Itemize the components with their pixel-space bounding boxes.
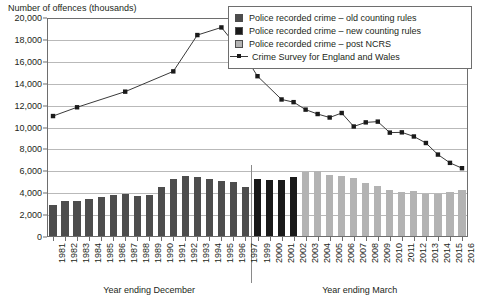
x-axis-tick-label: 1992 xyxy=(189,243,199,263)
x-axis-tick-label: 2001 xyxy=(286,243,296,263)
legend-item-label: Police recorded crime – post NCRS xyxy=(249,39,391,49)
y-axis-tick-label: 12,000 xyxy=(14,101,42,111)
x-axis-tick-label: 1981 xyxy=(57,243,67,263)
legend-swatch-icon xyxy=(235,40,243,48)
x-axis-tick xyxy=(294,237,295,241)
x-axis-tick-label: 1997 xyxy=(249,243,259,263)
x-axis-tick xyxy=(282,237,283,241)
legend-item-label: Crime Survey for England and Wales xyxy=(252,52,400,62)
x-axis-tick xyxy=(101,237,102,241)
y-axis-tick-label: 0 xyxy=(37,232,42,242)
x-axis-tick xyxy=(233,237,234,241)
x-axis-tick xyxy=(270,237,271,241)
x-axis-tick xyxy=(354,237,355,241)
y-axis-tick-label: 16,000 xyxy=(14,57,42,67)
x-axis-tick-label: 2000 xyxy=(274,243,284,263)
x-axis-tick xyxy=(366,237,367,241)
x-axis-tick xyxy=(65,237,66,241)
x-axis-tick-label: 1988 xyxy=(141,243,151,263)
x-axis-tick xyxy=(450,237,451,241)
x-axis-tick-label: 1994 xyxy=(213,243,223,263)
x-axis-tick xyxy=(77,237,78,241)
x-axis-tick-label: 1989 xyxy=(153,243,163,263)
x-axis-tick-label: 2012 xyxy=(418,243,428,263)
legend-item: Police recorded crime – post NCRS xyxy=(235,37,465,50)
x-axis-tick-label: 2009 xyxy=(382,243,392,263)
x-axis-tick xyxy=(89,237,90,241)
x-axis-tick-label: 1995 xyxy=(225,243,235,263)
x-axis-tick xyxy=(426,237,427,241)
crime-statistics-chart: Number of offences (thousands) 02,0004,0… xyxy=(0,0,479,303)
x-axis-tick-label: 2016 xyxy=(466,243,476,263)
x-axis-label-december: Year ending December xyxy=(103,285,195,295)
x-axis-tick-label: 1987 xyxy=(129,243,139,263)
x-axis-tick-label: 2003 xyxy=(310,243,320,263)
counting-rules-divider-upper xyxy=(251,165,252,237)
y-axis-tick-label: 18,000 xyxy=(14,35,42,45)
x-axis-tick-label: 2011 xyxy=(406,243,416,262)
x-axis-tick-label: 1982 xyxy=(69,243,79,263)
x-axis-tick-label: 1985 xyxy=(105,243,115,263)
x-axis-tick-label: 1983 xyxy=(81,243,91,263)
x-axis-tick xyxy=(318,237,319,241)
x-axis-tick xyxy=(185,237,186,241)
x-axis-tick xyxy=(221,237,222,241)
x-axis-tick xyxy=(161,237,162,241)
x-axis-tick-label: 2006 xyxy=(346,243,356,263)
legend-swatch-icon xyxy=(235,27,243,35)
x-axis-tick-label: 2010 xyxy=(394,243,404,263)
x-axis-tick xyxy=(438,237,439,241)
chart-legend: Police recorded crime – old counting rul… xyxy=(228,6,472,69)
x-axis-tick xyxy=(378,237,379,241)
x-axis-tick-label: 1993 xyxy=(201,243,211,263)
x-axis-tick xyxy=(414,237,415,241)
x-axis: 1981198219831984198519861987198819891990… xyxy=(47,237,468,303)
legend-item: Police recorded crime – new counting rul… xyxy=(235,24,465,37)
y-axis-tick-label: 10,000 xyxy=(14,123,42,133)
x-axis-tick-label: 2002 xyxy=(298,243,308,263)
x-axis-tick xyxy=(149,237,150,241)
y-axis-tick-label: 2,000 xyxy=(19,210,42,220)
x-axis-tick-label: 2015 xyxy=(454,243,464,263)
x-axis-tick xyxy=(306,237,307,241)
y-axis-tick-label: 6,000 xyxy=(19,166,42,176)
legend-swatch-icon xyxy=(235,14,243,22)
x-axis-tick-label: 1996 xyxy=(237,243,247,263)
x-axis-tick xyxy=(258,237,259,241)
x-axis-label-march: Year ending March xyxy=(322,285,397,295)
x-axis-tick-label: 2007 xyxy=(358,243,368,263)
x-axis-tick xyxy=(462,237,463,241)
y-axis-tick-label: 4,000 xyxy=(19,188,42,198)
x-axis-tick-label: 1999 xyxy=(262,243,272,263)
x-axis-tick xyxy=(390,237,391,241)
x-axis-tick xyxy=(125,237,126,241)
legend-line-marker-icon xyxy=(230,53,248,61)
x-axis-tick-label: 1984 xyxy=(93,243,103,263)
x-axis-tick xyxy=(173,237,174,241)
x-axis-tick-label: 2005 xyxy=(334,243,344,263)
x-axis-tick xyxy=(342,237,343,241)
legend-item-label: Police recorded crime – old counting rul… xyxy=(249,13,417,23)
x-axis-tick xyxy=(330,237,331,241)
x-axis-tick xyxy=(402,237,403,241)
x-axis-tick-label: 2004 xyxy=(322,243,332,263)
x-axis-tick-label: 1991 xyxy=(177,243,187,263)
y-axis-tick-label: 8,000 xyxy=(19,144,42,154)
x-axis-tick xyxy=(53,237,54,241)
legend-item: Crime Survey for England and Wales xyxy=(235,50,465,63)
x-axis-tick-label: 2014 xyxy=(442,243,452,263)
x-axis-tick-label: 1986 xyxy=(117,243,127,263)
y-axis-title: Number of offences (thousands) xyxy=(8,3,136,13)
x-axis-tick-label: 2008 xyxy=(370,243,380,263)
x-axis-tick-label: 2013 xyxy=(430,243,440,263)
y-axis-tick-label: 20,000 xyxy=(14,13,42,23)
x-axis-tick xyxy=(197,237,198,241)
y-axis-tick-label: 14,000 xyxy=(14,79,42,89)
x-axis-tick xyxy=(209,237,210,241)
legend-item-label: Police recorded crime – new counting rul… xyxy=(249,26,421,36)
x-axis-tick xyxy=(245,237,246,241)
x-axis-tick xyxy=(137,237,138,241)
legend-item: Police recorded crime – old counting rul… xyxy=(235,11,465,24)
x-axis-tick-label: 1990 xyxy=(165,243,175,263)
x-axis-tick xyxy=(113,237,114,241)
